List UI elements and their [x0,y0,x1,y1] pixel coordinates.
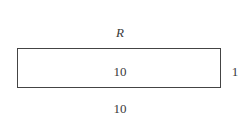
width-dimension-label: 10 [114,102,127,115]
height-dimension-label: 1 [232,65,239,78]
area-label: 10 [114,65,127,78]
rectangle-diagram: R 10 1 10 [0,0,249,124]
region-name-label: R [116,26,124,39]
